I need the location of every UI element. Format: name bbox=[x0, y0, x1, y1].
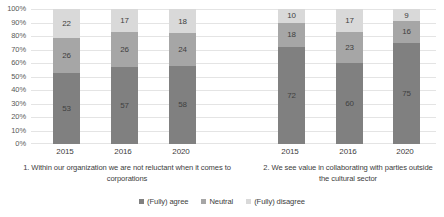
bar-segment-neutral[interactable]: 26 bbox=[111, 32, 138, 67]
bar-segment-agree[interactable]: 60 bbox=[336, 63, 363, 144]
legend-item-neutral[interactable]: Neutral bbox=[201, 197, 233, 206]
bar-segment-agree[interactable]: 57 bbox=[111, 67, 138, 144]
y-axis-tick: 50% bbox=[11, 73, 26, 81]
bar-value-label: 60 bbox=[345, 99, 354, 108]
bar-value-label: 18 bbox=[178, 17, 187, 26]
gridline bbox=[31, 104, 436, 105]
bar-value-label: 75 bbox=[402, 89, 411, 98]
bar-value-label: 16 bbox=[402, 27, 411, 36]
gridline bbox=[31, 36, 436, 37]
y-axis-tick: 70% bbox=[11, 46, 26, 54]
bar-segment-disagree[interactable]: 18 bbox=[169, 9, 196, 33]
gridline bbox=[31, 23, 436, 24]
legend-item-disagree[interactable]: (Fully) disagree bbox=[246, 197, 305, 206]
panel-1-caption: 1. Within our organization we are not re… bbox=[14, 163, 240, 184]
gridline bbox=[31, 90, 436, 91]
bar-segment-agree[interactable]: 53 bbox=[53, 73, 80, 144]
legend-label: Neutral bbox=[209, 197, 233, 206]
legend-label: (Fully) agree bbox=[147, 197, 188, 206]
bar-panel1-2020[interactable]: 18 24 58 bbox=[169, 9, 196, 144]
gridline bbox=[31, 50, 436, 51]
legend-label: (Fully) disagree bbox=[254, 197, 305, 206]
x-axis-label-panel2-2015: 2015 bbox=[270, 147, 310, 156]
bar-segment-agree[interactable]: 72 bbox=[278, 47, 305, 144]
bar-panel2-2020[interactable]: 9 16 75 bbox=[393, 9, 420, 144]
bar-value-label: 57 bbox=[120, 101, 129, 110]
legend-item-agree[interactable]: (Fully) agree bbox=[139, 197, 188, 206]
bar-segment-neutral[interactable]: 23 bbox=[336, 32, 363, 63]
bar-value-label: 24 bbox=[178, 45, 187, 54]
bar-value-label: 10 bbox=[287, 11, 296, 20]
bar-segment-neutral[interactable]: 26 bbox=[53, 38, 80, 73]
bar-segment-disagree[interactable]: 17 bbox=[111, 9, 138, 32]
panel-2-caption: 2. We see value in collaborating with pa… bbox=[258, 163, 438, 184]
legend-swatch-icon bbox=[246, 199, 251, 204]
bar-value-label: 22 bbox=[62, 19, 71, 28]
y-axis: 100% 90% 80% 70% 60% 50% 40% 30% 20% 10%… bbox=[0, 9, 28, 144]
x-axis-label-panel1-2015: 2015 bbox=[45, 147, 85, 156]
y-axis-tick: 0% bbox=[15, 140, 26, 148]
legend-swatch-icon bbox=[139, 199, 144, 204]
x-axis-label-panel1-2020: 2020 bbox=[161, 147, 201, 156]
x-axis-label-panel2-2020: 2020 bbox=[385, 147, 425, 156]
stacked-bar-chart-figure: 100% 90% 80% 70% 60% 50% 40% 30% 20% 10%… bbox=[0, 0, 444, 217]
gridline bbox=[31, 143, 436, 144]
bar-value-label: 26 bbox=[62, 51, 71, 60]
bar-value-label: 18 bbox=[287, 30, 296, 39]
bar-value-label: 9 bbox=[404, 11, 408, 20]
y-axis-tick: 100% bbox=[7, 5, 26, 13]
bar-segment-disagree[interactable]: 10 bbox=[278, 9, 305, 23]
y-axis-tick: 40% bbox=[11, 86, 26, 94]
y-axis-tick: 60% bbox=[11, 59, 26, 67]
gridline bbox=[31, 131, 436, 132]
bar-panel1-2016[interactable]: 17 26 57 bbox=[111, 9, 138, 144]
legend-swatch-icon bbox=[201, 199, 206, 204]
x-axis-label-panel1-2016: 2016 bbox=[103, 147, 143, 156]
chart-legend: (Fully) agree Neutral (Fully) disagree bbox=[0, 197, 444, 206]
bar-value-label: 23 bbox=[345, 43, 354, 52]
bar-segment-neutral[interactable]: 16 bbox=[393, 21, 420, 43]
gridline bbox=[31, 9, 436, 10]
bar-segment-agree[interactable]: 75 bbox=[393, 43, 420, 144]
bar-value-label: 17 bbox=[345, 16, 354, 25]
bar-value-label: 53 bbox=[62, 104, 71, 113]
gridline bbox=[31, 63, 436, 64]
bar-segment-disagree[interactable]: 22 bbox=[53, 9, 80, 38]
bar-segment-disagree[interactable]: 17 bbox=[336, 9, 363, 32]
gridline bbox=[31, 77, 436, 78]
bar-value-label: 72 bbox=[287, 91, 296, 100]
plot-area: 22 26 53 17 26 57 18 24 58 10 18 72 17 2… bbox=[31, 9, 436, 144]
bar-panel2-2016[interactable]: 17 23 60 bbox=[336, 9, 363, 144]
bar-segment-agree[interactable]: 58 bbox=[169, 66, 196, 144]
bar-value-label: 58 bbox=[178, 100, 187, 109]
x-axis-label-panel2-2016: 2016 bbox=[328, 147, 368, 156]
bar-value-label: 17 bbox=[120, 16, 129, 25]
bar-segment-disagree[interactable]: 9 bbox=[393, 9, 420, 21]
y-axis-tick: 80% bbox=[11, 32, 26, 40]
y-axis-tick: 10% bbox=[11, 127, 26, 135]
bar-segment-neutral[interactable]: 18 bbox=[278, 23, 305, 47]
gridline bbox=[31, 117, 436, 118]
bar-panel2-2015[interactable]: 10 18 72 bbox=[278, 9, 305, 144]
y-axis-tick: 20% bbox=[11, 113, 26, 121]
bar-panel1-2015[interactable]: 22 26 53 bbox=[53, 9, 80, 144]
bar-value-label: 26 bbox=[120, 45, 129, 54]
bar-segment-neutral[interactable]: 24 bbox=[169, 33, 196, 65]
y-axis-tick: 30% bbox=[11, 100, 26, 108]
y-axis-tick: 90% bbox=[11, 19, 26, 27]
